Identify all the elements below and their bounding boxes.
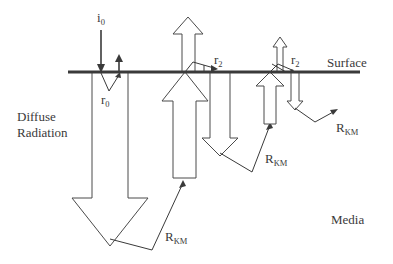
media-label: Media bbox=[331, 212, 364, 227]
rkm-1-label: RKM bbox=[165, 229, 188, 246]
specular-arrowhead-icon bbox=[115, 54, 123, 62]
r2-a-label: r2 bbox=[214, 52, 223, 69]
rkm-3-pointer bbox=[295, 108, 335, 122]
diffuse-radiation-label-line1: Diffuse bbox=[17, 109, 56, 124]
surface-label: Surface bbox=[327, 55, 367, 70]
rkm-1-up-arrow bbox=[162, 72, 208, 178]
rkm-1-arrowhead-icon bbox=[179, 180, 186, 188]
r2-b-dot bbox=[290, 69, 294, 73]
radiation-diagram: i0 r0 r2 r2 Surface Diffuse Radiation RK… bbox=[0, 0, 393, 264]
diffuse-radiation-label-line2: Radiation bbox=[17, 125, 68, 140]
penetrating-down-arrow-2 bbox=[202, 72, 238, 156]
rkm-2-up-arrow bbox=[256, 72, 284, 124]
diffuse-radiation-down-arrow bbox=[72, 72, 148, 246]
rkm-2-label: RKM bbox=[265, 151, 288, 168]
r2-b-label: r2 bbox=[291, 52, 300, 69]
incident-label: i0 bbox=[97, 10, 105, 27]
rkm-3-arrowhead-icon bbox=[330, 109, 338, 115]
rkm-3-label: RKM bbox=[336, 120, 359, 137]
penetrating-down-arrow-3 bbox=[287, 72, 303, 110]
